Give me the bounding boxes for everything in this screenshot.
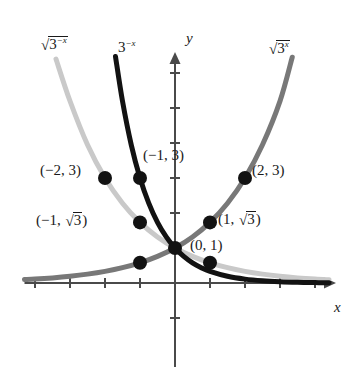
point-label-1-sqrt3: (1, √3) (218, 211, 261, 228)
point-label-neg1-3: (−1, 3) (143, 148, 184, 163)
data-point-marker (98, 171, 112, 185)
y-axis-arrowhead (170, 52, 181, 64)
point-label-neg2-3: (−2, 3) (40, 163, 81, 178)
curve-label-sqrt-3-x: √3x (268, 40, 290, 57)
data-point-marker (238, 171, 252, 185)
point-label-neg1-sqrt3: (−1, √3) (36, 212, 87, 229)
y-axis-label: y (186, 31, 193, 46)
data-point-marker (203, 215, 217, 229)
curve-label-sqrt-3-neg-x: √3−x (40, 36, 68, 53)
data-point-marker (168, 241, 182, 255)
data-point-marker (203, 256, 217, 270)
data-point-marker (133, 171, 147, 185)
curve-label-3-neg-x: 3−x (118, 40, 136, 55)
point-label-0-1: (0, 1) (190, 238, 223, 253)
data-point-marker (133, 215, 147, 229)
point-label-2-3: (2, 3) (252, 163, 285, 178)
x-axis-label: x (334, 300, 341, 315)
exponential-graph-figure: √3−x 3−x √3x (−2, 3) (−1, 3) (2, 3) (−1,… (0, 0, 356, 375)
plot-canvas (0, 0, 356, 375)
data-point-marker (133, 256, 147, 270)
